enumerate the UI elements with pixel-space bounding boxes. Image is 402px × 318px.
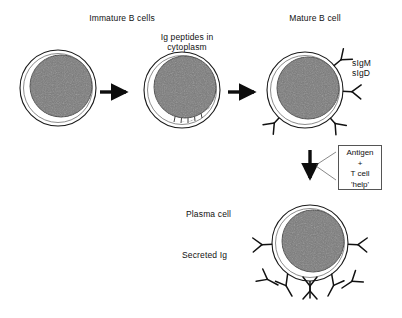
plasma-cell-label: Plasma cell [186,209,262,219]
antigen-box-line-2: + [339,159,381,170]
immature-b-cell-2 [144,52,220,128]
surface-ig-label: sIgM sIgD [352,58,398,78]
antigen-t-cell-help-box: Antigen + T cell 'help' [338,145,382,190]
immature-b-cell-1 [20,50,96,126]
nucleus [154,56,216,118]
mature-b-cell-label: Mature B cell [263,13,367,23]
antigen-box-line-4: 'help' [339,180,381,191]
nucleus [282,210,344,272]
nucleus [30,55,92,117]
secreted-ig-label: Secreted Ig [182,250,262,260]
antigen-box-line-1: Antigen [339,148,381,159]
ig-peptides-label: Ig peptides in cytoplasm [137,32,237,52]
immature-b-cells-label: Immature B cells [63,13,181,23]
antigen-box-line-3: T cell [339,169,381,180]
nucleus [277,57,339,119]
